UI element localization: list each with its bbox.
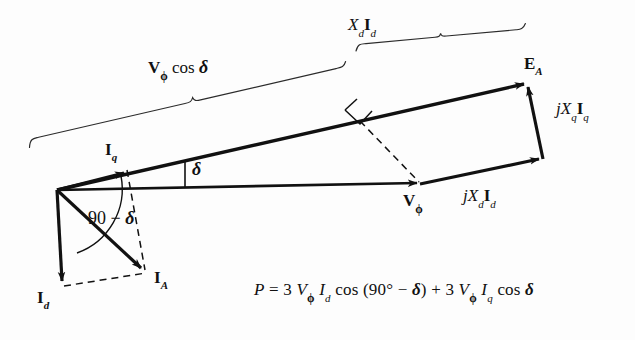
label-vphi-cos-delta: Vϕ cos δ: [148, 58, 208, 79]
label-jxd-id: jXdId: [463, 187, 496, 207]
label-vphi: Vϕ: [403, 192, 423, 212]
label-ia: IA: [154, 269, 168, 289]
vector-ea: [57, 84, 524, 190]
xd-id-brace: [356, 24, 525, 52]
vector-jxd-id: [420, 159, 539, 184]
label-xd-id: XdId: [348, 16, 376, 36]
vector-iq: [57, 173, 124, 190]
label-id: Id: [37, 289, 49, 309]
label-delta-angle: δ: [192, 160, 201, 178]
label-jxq-iq: jXqIq: [556, 100, 589, 120]
perpendicular-drop-dashed: [360, 121, 419, 182]
vector-ia: [57, 190, 141, 268]
phasor-diagram-figure: XdId Vϕ cos δ EA jXqIq jXdId Iq Vϕ Id IA…: [0, 0, 635, 340]
vector-vphi: [57, 183, 417, 190]
vector-jxq-iq: [528, 87, 543, 159]
id-to-ia-dashed: [64, 273, 146, 286]
label-ninety-minus-delta: 90 − δ: [88, 209, 134, 227]
label-ea: EA: [524, 55, 543, 75]
right-angle-marker-side: [345, 99, 357, 110]
vector-id: [57, 190, 62, 281]
power-equation: P = 3 Vϕ Id cos (90° − δ) + 3 Vϕ Iq cos …: [254, 281, 534, 301]
label-iq: Iq: [105, 141, 117, 161]
